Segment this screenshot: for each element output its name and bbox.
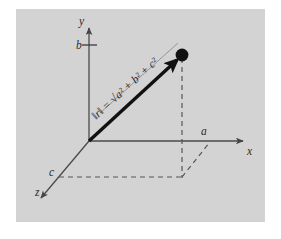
component-c-label: c — [49, 166, 54, 178]
figure-root: ‖r‖ = √a² + b² + c² y x z b a c — [0, 0, 281, 239]
y-axis-label: y — [78, 15, 85, 28]
z-axis-label: z — [34, 186, 40, 198]
magnitude-label-group: ‖r‖ = √a² + b² + c² — [89, 55, 160, 121]
vector-diagram-svg: ‖r‖ = √a² + b² + c² y x z b a c — [0, 0, 281, 239]
terminal-point-dot — [176, 49, 189, 62]
component-a-label: a — [201, 125, 207, 137]
x-axis-label: x — [246, 145, 253, 157]
magnitude-formula-label: ‖r‖ = √a² + b² + c² — [89, 55, 160, 121]
component-b-label: b — [76, 39, 82, 51]
x-projection-dashed-line — [182, 142, 210, 177]
